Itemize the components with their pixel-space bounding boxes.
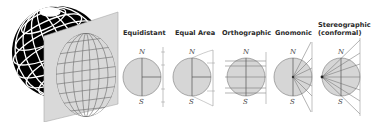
pole-north-equidistant: N	[139, 49, 145, 56]
label-gnomonic: Gnomonic	[275, 30, 312, 38]
pole-north-gnomonic: N	[290, 49, 296, 56]
equal-area-diagram	[173, 50, 215, 106]
orthographic-diagram	[225, 52, 266, 104]
label-conformal: (conformal)	[318, 30, 361, 38]
pole-south-stereographic: S	[338, 99, 343, 106]
pole-north-stereographic: N	[338, 49, 344, 56]
label-equidistant: Equidistant	[123, 30, 166, 38]
pole-south-equidistant: S	[139, 99, 144, 106]
label-orthographic: Orthographic	[222, 30, 271, 38]
pole-north-equal-area: N	[189, 49, 195, 56]
projection-diagram: Equidistant Equal Area Orthographic Gnom…	[0, 0, 371, 122]
pole-south-equal-area: S	[189, 99, 194, 106]
pole-south-orthographic: S	[243, 99, 248, 106]
pole-south-gnomonic: S	[290, 99, 295, 106]
pole-north-orthographic: N	[243, 49, 249, 56]
diagram-canvas	[0, 0, 371, 122]
label-equal-area: Equal Area	[175, 30, 215, 38]
equidistant-diagram	[123, 47, 165, 107]
